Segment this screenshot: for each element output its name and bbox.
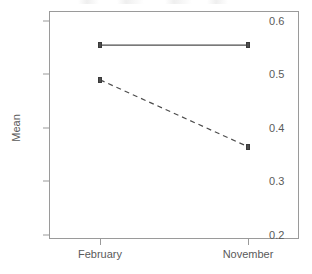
data-point-series-1-february (98, 42, 102, 48)
y-tick-label-0.5: 0.5 (269, 68, 312, 80)
y-axis-title: Mean (10, 114, 22, 142)
plot-area (49, 11, 299, 239)
x-tick-label-february: February (78, 248, 122, 260)
y-tick-mark-0.4 (43, 128, 49, 129)
data-point-series-2-november (246, 144, 250, 150)
y-tick-label-0.6: 0.6 (269, 15, 312, 27)
y-tick-mark-0.3 (43, 181, 49, 182)
x-tick-label-november: November (223, 248, 274, 260)
y-tick-label-0.4: 0.4 (269, 122, 312, 134)
y-tick-label-0.2: 0.2 (269, 229, 312, 241)
y-tick-mark-0.6 (43, 21, 49, 22)
cropped-title-remnant (78, 0, 228, 4)
y-tick-label-0.3: 0.3 (269, 175, 312, 187)
y-tick-mark-0.2 (43, 235, 49, 236)
chart-screenshot: Mean 0.6 0.5 0.4 0.3 0.2 February Novemb… (0, 0, 312, 274)
x-tick-mark-february (100, 239, 101, 245)
x-tick-mark-november (248, 239, 249, 245)
data-point-series-2-february (98, 77, 102, 83)
data-point-series-1-november (246, 42, 250, 48)
y-tick-mark-0.5 (43, 74, 49, 75)
